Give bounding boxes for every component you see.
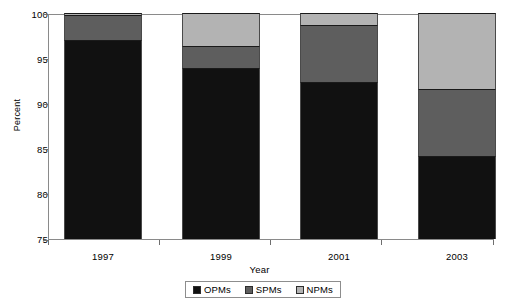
y-tick-label-90: 90	[8, 100, 48, 110]
bar-segment-2003-opms[interactable]	[418, 156, 496, 239]
x-tick-mark-3	[381, 240, 382, 245]
legend-item-spms[interactable]: SPMs	[245, 284, 282, 295]
y-tick-label-95: 95	[8, 55, 48, 65]
legend-label-npms: NPMs	[307, 284, 333, 295]
bar-segment-2001-npms[interactable]	[300, 13, 378, 25]
legend-swatch-npms	[296, 286, 304, 294]
stacked-bar-chart: Percent 100 95 90 85 80 75 1997 1999 200…	[0, 0, 519, 303]
bar-segment-1997-spms[interactable]	[64, 15, 142, 40]
x-tick-mark-right-edge	[493, 240, 494, 245]
x-axis-title: Year	[0, 264, 519, 275]
y-tick-label-85: 85	[8, 145, 48, 155]
bar-1997[interactable]	[64, 13, 142, 239]
legend-item-opms[interactable]: OPMs	[193, 284, 231, 295]
bar-segment-2003-npms[interactable]	[418, 13, 496, 89]
chart-legend: OPMs SPMs NPMs	[185, 281, 341, 298]
legend-label-spms: SPMs	[256, 284, 282, 295]
x-tick-label-1999: 1999	[191, 251, 251, 262]
legend-item-npms[interactable]: NPMs	[296, 284, 333, 295]
x-tick-label-1997: 1997	[73, 251, 133, 262]
legend-swatch-spms	[245, 286, 253, 294]
x-tick-mark-1	[159, 240, 160, 245]
plot-area	[48, 14, 494, 240]
bar-segment-1999-npms[interactable]	[182, 13, 260, 46]
bar-segment-2001-opms[interactable]	[300, 82, 378, 239]
y-tick-label-80: 80	[8, 190, 48, 200]
x-tick-label-2003: 2003	[427, 251, 487, 262]
bar-segment-2003-spms[interactable]	[418, 89, 496, 156]
x-tick-mark-2	[270, 240, 271, 245]
legend-label-opms: OPMs	[204, 284, 231, 295]
bar-segment-2001-spms[interactable]	[300, 25, 378, 82]
bar-2001[interactable]	[300, 13, 378, 239]
legend-swatch-opms	[193, 286, 201, 294]
y-tick-label-100: 100	[8, 10, 48, 20]
bar-2003[interactable]	[418, 13, 496, 239]
bar-segment-1997-opms[interactable]	[64, 40, 142, 239]
x-tick-label-2001: 2001	[309, 251, 369, 262]
bar-1999[interactable]	[182, 13, 260, 239]
y-axis-ticks: 100 95 90 85 80 75	[0, 0, 48, 303]
bar-segment-1999-spms[interactable]	[182, 46, 260, 68]
bar-segment-1999-opms[interactable]	[182, 68, 260, 239]
bar-segment-1997-npms[interactable]	[64, 13, 142, 15]
y-tick-label-75: 75	[8, 235, 48, 245]
x-tick-mark-left-edge	[48, 240, 49, 245]
